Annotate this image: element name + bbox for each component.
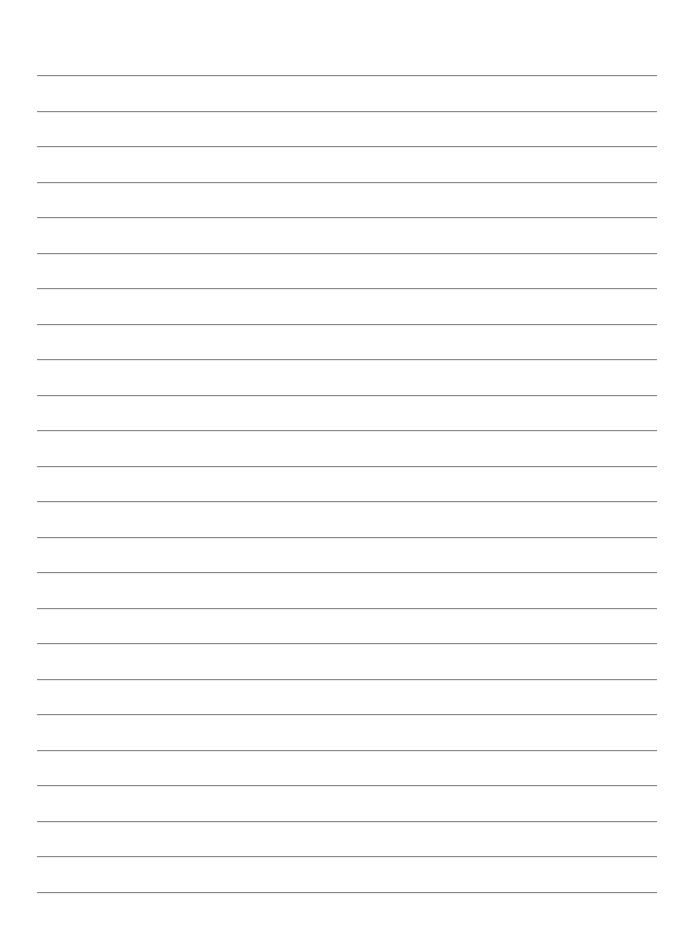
ruled-line [37, 750, 657, 751]
ruled-line [37, 572, 657, 573]
lined-paper-page [0, 0, 692, 931]
ruled-line [37, 217, 657, 218]
ruled-line [37, 501, 657, 502]
ruled-line [37, 821, 657, 822]
ruled-line [37, 856, 657, 857]
ruled-line [37, 679, 657, 680]
ruled-line [37, 288, 657, 289]
ruled-line [37, 608, 657, 609]
ruled-line [37, 395, 657, 396]
ruled-line [37, 714, 657, 715]
ruled-line [37, 785, 657, 786]
ruled-line [37, 430, 657, 431]
ruled-line [37, 253, 657, 254]
ruled-line [37, 111, 657, 112]
ruled-line [37, 146, 657, 147]
ruled-line [37, 892, 657, 893]
ruled-line [37, 75, 657, 76]
ruled-line [37, 537, 657, 538]
ruled-line [37, 182, 657, 183]
ruled-line [37, 359, 657, 360]
ruled-line [37, 643, 657, 644]
ruled-line [37, 466, 657, 467]
ruled-line [37, 324, 657, 325]
